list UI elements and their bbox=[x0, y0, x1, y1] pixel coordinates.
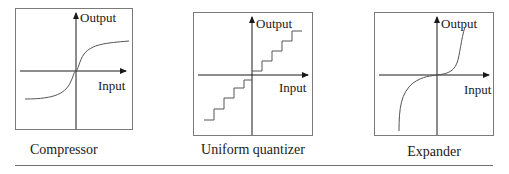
compressor-caption: Compressor bbox=[30, 142, 130, 158]
output-axis-label: Output bbox=[80, 11, 116, 25]
bottom-rule bbox=[15, 165, 493, 166]
uniform-quantizer-caption: Uniform quantizer bbox=[193, 142, 313, 158]
expander-panel: Output Input bbox=[374, 12, 494, 136]
expander-curve bbox=[399, 27, 465, 131]
input-axis-label: Input bbox=[464, 83, 491, 97]
compressor-panel: Output Input bbox=[15, 8, 133, 130]
compressor-graph bbox=[16, 9, 134, 131]
expander-graph bbox=[375, 13, 495, 137]
uniform-quantizer-graph bbox=[194, 13, 314, 137]
output-axis-label: Output bbox=[441, 17, 477, 31]
expander-caption: Expander bbox=[374, 144, 494, 160]
output-axis-label: Output bbox=[256, 17, 292, 31]
uniform-quantizer-panel: Output Input bbox=[193, 12, 313, 136]
input-axis-label: Input bbox=[279, 81, 306, 95]
input-axis-label: Input bbox=[98, 79, 125, 93]
